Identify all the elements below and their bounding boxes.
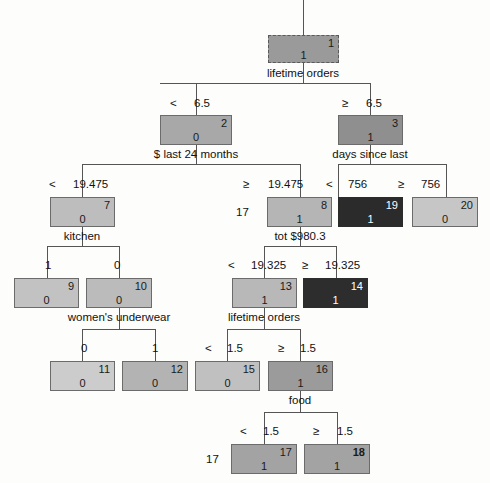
- split-n13-left-value: 1.5: [227, 342, 243, 355]
- split-n7-left-operator: 1: [45, 259, 51, 272]
- tree-node-19[interactable]: 191: [338, 197, 403, 227]
- node-id-9: 9: [68, 280, 74, 292]
- node-id-12: 12: [171, 363, 183, 375]
- node-class-value-2: 0: [161, 131, 231, 143]
- split-root-left-value: 6.5: [194, 97, 210, 110]
- split-n10-right-operator: 1: [152, 342, 158, 355]
- node-id-15: 15: [243, 363, 255, 375]
- node-id-8: 8: [321, 199, 327, 211]
- tree-node-14[interactable]: 141: [303, 278, 368, 308]
- node-class-value-9: 0: [15, 294, 78, 306]
- tree-node-15[interactable]: 150: [195, 361, 260, 391]
- split-n2-left-operator: <: [49, 178, 56, 191]
- split-variable-dollar-last-24-months: $ last 24 months: [154, 148, 238, 161]
- node-class-value-15: 0: [196, 377, 259, 389]
- node-class-value-19: 1: [339, 213, 402, 225]
- split-n3-left-operator: <: [326, 178, 333, 191]
- split-n8-right-operator: ≥: [302, 259, 308, 272]
- edge-n13-bus: [227, 329, 300, 330]
- edge-n2-bus: [82, 164, 300, 165]
- split-n8-right-value: 19.325: [325, 259, 360, 272]
- split-n13-right-operator: ≥: [278, 342, 284, 355]
- split-variable-kitchen: kitchen: [64, 230, 100, 243]
- split-variable-tot-dollar-980-3: tot $980.3: [274, 230, 325, 243]
- node-class-value-3: 1: [339, 131, 402, 143]
- split-n16-right-operator: ≥: [313, 425, 319, 438]
- edge-n3-bus: [338, 164, 446, 165]
- tree-node-18[interactable]: 181: [304, 444, 370, 474]
- node-id-2: 2: [221, 117, 227, 129]
- split-n13-left-operator: <: [205, 342, 212, 355]
- edge-n7-bus: [47, 246, 119, 247]
- tree-node-13[interactable]: 131: [232, 278, 297, 308]
- edge-n3-to-n19: [338, 164, 339, 197]
- tree-node-2[interactable]: 20: [160, 115, 232, 145]
- tree-node-7[interactable]: 70: [50, 197, 115, 227]
- edge-n16-bus: [264, 412, 337, 413]
- tree-node-9[interactable]: 90: [14, 278, 79, 308]
- node-class-value-10: 0: [87, 294, 151, 306]
- node-class-value-1: 1: [269, 49, 338, 61]
- node-id-18: 18: [353, 446, 365, 458]
- split-variable-womens-underwear: women's underwear: [68, 311, 171, 324]
- split-n2-left-value: 19.475: [73, 178, 108, 191]
- split-n2-right-value: 19.475: [268, 178, 303, 191]
- split-n16-left-operator: <: [240, 425, 247, 438]
- node-class-value-12: 0: [123, 377, 187, 389]
- tree-node-10[interactable]: 100: [86, 278, 152, 308]
- split-variable-lifetime-orders-n13: lifetime orders: [228, 311, 300, 324]
- split-variable-food: food: [289, 394, 311, 407]
- split-n3-left-value: 756: [348, 178, 367, 191]
- tree-node-12[interactable]: 120: [122, 361, 188, 391]
- edge-root-stem: [303, 0, 304, 35]
- split-variable-lifetime-orders-root: lifetime orders: [267, 67, 339, 80]
- split-n3-right-value: 756: [421, 178, 440, 191]
- side-label-node17: 17: [206, 453, 219, 466]
- node-id-20: 20: [461, 199, 473, 211]
- split-n16-left-value: 1.5: [263, 425, 279, 438]
- decision-tree-diagram: 1120317081191200901001311411101201501611…: [0, 0, 490, 483]
- split-n2-right-operator: ≥: [243, 178, 249, 191]
- node-class-value-11: 0: [51, 377, 114, 389]
- split-n10-left-operator: 0: [81, 342, 87, 355]
- split-n8-left-operator: <: [228, 259, 235, 272]
- split-n8-left-value: 19.325: [251, 259, 286, 272]
- node-class-value-18: 1: [305, 460, 369, 472]
- edge-n10-bus: [82, 329, 155, 330]
- node-id-10: 10: [135, 280, 147, 292]
- tree-node-1[interactable]: 11: [268, 35, 339, 63]
- node-id-17: 17: [280, 446, 292, 458]
- node-class-value-16: 1: [269, 377, 332, 389]
- node-id-11: 11: [99, 363, 110, 375]
- node-id-19: 19: [386, 199, 398, 211]
- node-class-value-20: 0: [413, 213, 477, 225]
- split-n7-right-operator: 0: [114, 259, 120, 272]
- node-id-16: 16: [316, 363, 328, 375]
- node-id-7: 7: [104, 199, 110, 211]
- node-id-14: 14: [351, 280, 363, 292]
- tree-node-11[interactable]: 110: [50, 361, 115, 391]
- split-root-right-operator: ≥: [342, 97, 348, 110]
- tree-node-17[interactable]: 171: [231, 444, 297, 474]
- node-class-value-7: 0: [51, 213, 114, 225]
- tree-node-3[interactable]: 31: [338, 115, 403, 145]
- tree-node-16[interactable]: 161: [268, 361, 333, 391]
- split-root-left-operator: <: [170, 97, 177, 110]
- split-variable-days-since-last: days since last: [332, 148, 407, 161]
- node-id-3: 3: [392, 117, 398, 129]
- tree-node-20[interactable]: 200: [412, 197, 478, 227]
- node-class-value-14: 1: [304, 294, 367, 306]
- split-n3-right-operator: ≥: [398, 178, 404, 191]
- node-id-13: 13: [280, 280, 292, 292]
- split-n16-right-value: 1.5: [337, 425, 353, 438]
- edge-n8-bus: [264, 246, 336, 247]
- node-class-value-13: 1: [233, 294, 296, 306]
- split-n13-right-value: 1.5: [300, 342, 316, 355]
- node-id-1: 1: [328, 37, 334, 49]
- tree-node-8[interactable]: 81: [267, 197, 332, 227]
- node-class-value-17: 1: [232, 460, 296, 472]
- edge-n3-to-n20: [446, 164, 447, 197]
- split-root-right-value: 6.5: [366, 97, 382, 110]
- edge-root-bus: [160, 83, 370, 84]
- side-label-node8: 17: [236, 206, 249, 219]
